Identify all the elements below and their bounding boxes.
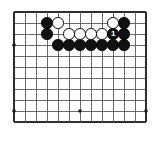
goban[interactable]: 1	[0, 0, 165, 145]
white-stone[interactable]	[107, 17, 119, 29]
black-stone[interactable]	[118, 17, 130, 29]
board-grid	[0, 0, 165, 145]
black-stone[interactable]	[96, 39, 108, 51]
black-stone[interactable]	[41, 17, 53, 29]
black-stone[interactable]	[52, 39, 64, 51]
black-stone[interactable]	[41, 28, 53, 40]
white-stone[interactable]	[63, 28, 75, 40]
star-point	[12, 109, 16, 113]
black-stone[interactable]: 1	[107, 28, 119, 40]
black-stone[interactable]	[85, 39, 97, 51]
star-point	[144, 109, 148, 113]
white-stone[interactable]	[52, 17, 64, 29]
white-stone[interactable]	[85, 28, 97, 40]
white-stone[interactable]	[74, 28, 86, 40]
black-stone[interactable]	[118, 28, 130, 40]
go-board-diagram: 1	[0, 0, 165, 145]
black-stone[interactable]	[63, 39, 75, 51]
star-point	[78, 109, 82, 113]
star-point	[12, 43, 16, 47]
black-stone[interactable]	[107, 39, 119, 51]
black-stone[interactable]	[118, 39, 130, 51]
move-number-label: 1	[111, 30, 115, 38]
black-stone[interactable]	[74, 39, 86, 51]
white-stone[interactable]	[96, 28, 108, 40]
